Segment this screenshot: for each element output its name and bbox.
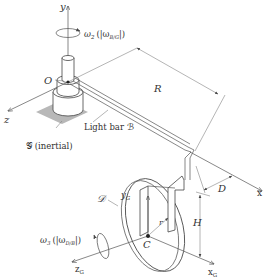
label-zG: zG [75, 264, 84, 275]
label-omega2: ω2(|ωB/G|) [84, 29, 125, 40]
label-R: R [153, 83, 162, 94]
center-C [146, 234, 150, 238]
label-disk: 𝒟 [97, 193, 107, 204]
label-xG: xG [208, 267, 217, 278]
label-x: x [257, 188, 262, 198]
omega3-rotation-icon [95, 232, 111, 260]
label-z: z [3, 114, 10, 125]
label-C: C [143, 239, 151, 250]
label-ground: 𝒢 (inertial) [26, 141, 73, 151]
label-y: y [59, 1, 66, 12]
svg-text:ω3(|ωD/B|): ω3(|ωD/B|) [40, 235, 81, 246]
svg-text:ω2(|ωB/G|): ω2(|ωB/G|) [84, 29, 125, 40]
label-H: H [192, 217, 202, 228]
label-D: D [217, 183, 226, 194]
origin-O [66, 80, 69, 83]
diagram-canvas: y ω2(|ωB/G|) O z Light bar ℬ 𝒢 (inertial… [0, 0, 274, 280]
label-O: O [44, 75, 52, 86]
label-omega3: ω3(|ωD/B|) [40, 235, 81, 246]
diagram-svg: y ω2(|ωB/G|) O z Light bar ℬ 𝒢 (inertial… [0, 0, 274, 280]
base-cylinder [53, 56, 83, 117]
R-dimension [137, 48, 218, 94]
x-axis-upper [68, 48, 137, 82]
label-light-bar: Light bar ℬ [84, 122, 134, 132]
